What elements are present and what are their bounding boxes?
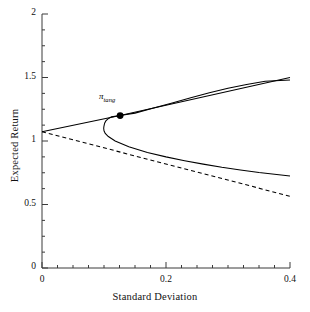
y-axis-label: Expected Return [9,86,20,206]
x-axis-label: Standard Deviation [0,291,310,302]
chart-plot-area [0,0,310,312]
tangency-point-marker [117,112,124,119]
chart-annotation-markers [117,112,124,119]
y-tick-label: 0 [2,261,36,271]
series-inefficient-risk-free-line [42,132,290,197]
series-efficient-frontier-upper [104,80,290,126]
y-tick-label: 1.5 [2,71,36,81]
chart-figure: Standard Deviation Expected Return 00.20… [0,0,310,312]
series-efficient-frontier-lower [104,126,290,176]
tangency-portfolio-label: πtang [99,91,115,103]
chart-series-group [42,78,290,197]
x-tick-label: 0.4 [270,274,310,284]
x-tick-label: 0 [22,274,62,284]
x-tick-label: 0.2 [146,274,186,284]
y-tick-label: 0.5 [2,198,36,208]
tangency-subscript: tang [104,96,116,103]
y-tick-label: 1 [2,134,36,144]
y-tick-label: 2 [2,7,36,17]
